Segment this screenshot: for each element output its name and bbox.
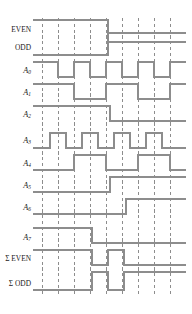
waveform-sum-even xyxy=(33,250,186,265)
waveform-a2 xyxy=(33,106,186,121)
timing-diagram-canvas: EVEN ODD A0 A1 A2 A3 A4 A5 A6 xyxy=(0,0,192,314)
waveform-a6 xyxy=(33,199,186,214)
row-label-a5-subscript: 5 xyxy=(28,184,31,190)
waveform-a3 xyxy=(33,133,186,148)
waveform-odd xyxy=(33,33,186,55)
row-label-a4-subscript: 4 xyxy=(28,162,31,168)
row-label-a1-subscript: 1 xyxy=(28,91,31,97)
waveform-a0 xyxy=(33,62,186,77)
waveforms-group xyxy=(33,20,186,290)
row-label-a1: A1 xyxy=(22,88,31,97)
row-label-odd: ODD xyxy=(15,43,32,52)
row-label-a7: A7 xyxy=(22,233,31,242)
row-label-a0-subscript: 0 xyxy=(28,69,31,75)
waveform-a7 xyxy=(33,228,186,243)
row-labels-group: EVEN ODD A0 A1 A2 A3 A4 A5 A6 xyxy=(5,25,32,288)
row-label-a3: A3 xyxy=(22,136,31,145)
row-label-even: EVEN xyxy=(11,25,31,34)
row-label-a2-subscript: 2 xyxy=(28,113,31,119)
waveform-sum-odd xyxy=(33,272,186,290)
waveform-a5 xyxy=(33,177,186,192)
waveform-a1 xyxy=(33,84,186,99)
row-label-a4: A4 xyxy=(22,159,31,168)
waveform-a4 xyxy=(33,155,186,170)
timing-diagram-figure: EVEN ODD A0 A1 A2 A3 A4 A5 A6 xyxy=(0,0,192,314)
row-label-a0: A0 xyxy=(22,66,31,75)
row-label-sum-odd: Σ ODD xyxy=(9,279,32,288)
row-label-a2: A2 xyxy=(22,110,31,119)
waveform-even xyxy=(33,20,186,42)
row-label-a7-subscript: 7 xyxy=(28,236,31,242)
row-label-a6: A6 xyxy=(22,203,31,212)
row-label-a6-subscript: 6 xyxy=(28,206,31,212)
row-label-sum-even: Σ EVEN xyxy=(5,254,32,263)
row-label-a3-subscript: 3 xyxy=(27,139,31,145)
row-label-a5: A5 xyxy=(22,181,31,190)
